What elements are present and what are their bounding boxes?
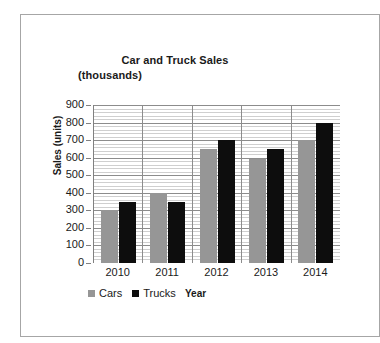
chart-title-line2: (thousands) [70, 68, 280, 83]
y-tick-label: 500 [66, 168, 84, 181]
legend-label: Cars [99, 287, 122, 299]
bar-trucks-2014[interactable] [316, 123, 333, 263]
x-axis-label: Year [185, 288, 206, 299]
legend-item-cars[interactable]: Cars [88, 287, 122, 299]
y-tick-mark [86, 140, 91, 141]
y-tick-label: 100 [66, 238, 84, 251]
y-tick-mark [86, 210, 91, 211]
y-tick-label: 800 [66, 116, 84, 129]
bar-cars-2014[interactable] [298, 140, 315, 263]
bar-cars-2011[interactable] [150, 193, 167, 263]
y-tick-label: 400 [66, 186, 84, 199]
bar-groups [94, 105, 340, 263]
legend-swatch-cars-icon [88, 290, 95, 297]
y-tick-mark [86, 245, 91, 246]
y-tick-label: 600 [66, 151, 84, 164]
y-tick-mark [86, 193, 91, 194]
y-tick-mark [86, 105, 91, 106]
y-tick-mark [86, 228, 91, 229]
bar-group [242, 105, 291, 263]
x-tick-label: 2014 [291, 266, 340, 278]
bar-group [192, 105, 241, 263]
bar-cars-2013[interactable] [249, 159, 266, 263]
bar-cars-2010[interactable] [101, 210, 118, 263]
y-tick-label: 200 [66, 221, 84, 234]
y-tick-mark [86, 158, 91, 159]
bar-group [94, 105, 143, 263]
bar-cars-2012[interactable] [200, 149, 217, 263]
bar-trucks-2013[interactable] [267, 149, 284, 263]
bar-group [143, 105, 192, 263]
x-axis-ticks: 20102011201220132014 [93, 266, 340, 278]
y-tick-label: 300 [66, 203, 84, 216]
bar-group [291, 105, 340, 263]
plot-area [93, 105, 340, 263]
y-tick-label: 900 [66, 98, 84, 111]
x-tick-label: 2012 [192, 266, 241, 278]
y-tick-label: 0 [78, 256, 84, 269]
legend-swatch-trucks-icon [132, 290, 139, 297]
x-tick-label: 2013 [241, 266, 290, 278]
y-tick-mark [86, 263, 91, 264]
y-axis-ticks: 9008007006005004003002001000 [55, 98, 89, 270]
y-tick-label: 700 [66, 133, 84, 146]
chart-title: Car and Truck Sales (thousands) [70, 53, 280, 83]
bar-trucks-2012[interactable] [218, 140, 235, 263]
bar-trucks-2011[interactable] [168, 202, 185, 263]
y-tick-mark [86, 175, 91, 176]
x-tick-label: 2011 [142, 266, 191, 278]
bar-trucks-2010[interactable] [119, 202, 136, 263]
legend-item-trucks[interactable]: Trucks [132, 287, 176, 299]
x-tick-label: 2010 [93, 266, 142, 278]
y-tick-mark [86, 123, 91, 124]
legend-label: Trucks [143, 287, 176, 299]
chart-legend: CarsTrucks [88, 287, 176, 299]
chart-title-line1: Car and Truck Sales [121, 54, 228, 66]
